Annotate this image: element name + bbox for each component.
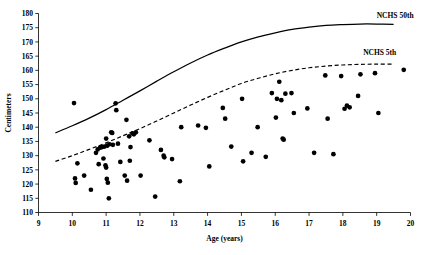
scatter-chart: 1101151201251301351401451501551601651701…	[0, 0, 423, 255]
y-tick-label: 140	[22, 123, 34, 132]
data-point	[339, 74, 344, 79]
x-tick-label: 10	[69, 219, 77, 228]
y-tick-label: 165	[22, 52, 34, 61]
data-point	[281, 137, 286, 142]
data-point	[325, 116, 330, 121]
data-point	[291, 111, 296, 116]
data-point	[82, 173, 87, 178]
data-point	[162, 155, 167, 160]
nchs-50th-label: NCHS 50th	[377, 11, 415, 20]
data-point	[122, 173, 127, 178]
x-tick-label: 13	[170, 219, 178, 228]
y-tick-label: 175	[22, 23, 34, 32]
data-point	[229, 144, 234, 149]
data-point	[73, 181, 78, 186]
x-axis: 91011121314151617181920	[37, 213, 415, 228]
y-tick-label: 160	[22, 66, 34, 75]
data-point	[134, 130, 139, 135]
data-point	[73, 176, 78, 181]
data-point	[241, 159, 246, 164]
y-tick-label: 125	[22, 166, 34, 175]
data-point	[401, 67, 406, 72]
data-point	[274, 115, 279, 120]
data-point	[111, 142, 116, 147]
y-axis-title: Centimeters	[4, 93, 13, 132]
data-point	[127, 158, 132, 163]
chart-canvas: 1101151201251301351401451501551601651701…	[0, 0, 423, 255]
data-point	[358, 72, 363, 77]
data-point	[204, 125, 209, 130]
data-point	[263, 154, 268, 159]
data-point	[305, 106, 310, 111]
data-point	[118, 160, 123, 165]
data-point	[153, 194, 158, 199]
data-point	[110, 131, 115, 136]
data-point	[240, 96, 245, 101]
data-point	[323, 73, 328, 78]
y-tick-label: 110	[22, 208, 33, 217]
data-point	[312, 150, 317, 155]
data-point	[196, 123, 201, 128]
x-tick-label: 20	[407, 219, 415, 228]
x-tick-label: 18	[339, 219, 347, 228]
data-point	[178, 179, 183, 184]
data-point	[96, 162, 101, 167]
data-point	[170, 157, 175, 162]
y-tick-label: 180	[22, 9, 34, 18]
x-axis-title: Age (years)	[206, 234, 243, 243]
data-point	[347, 105, 352, 110]
x-tick-label: 14	[204, 219, 212, 228]
y-tick-label: 145	[22, 109, 34, 118]
data-point	[207, 164, 212, 169]
y-tick-label: 155	[22, 80, 34, 89]
data-point	[104, 165, 109, 170]
series-labels: NCHS 50thNCHS 5th	[363, 11, 414, 57]
data-point	[356, 94, 361, 99]
data-point	[116, 141, 121, 146]
data-point	[249, 150, 254, 155]
data-point	[72, 101, 77, 106]
data-point	[275, 96, 280, 101]
y-tick-label: 115	[22, 194, 33, 203]
data-point	[147, 138, 152, 143]
data-point	[223, 116, 228, 121]
data-point	[220, 106, 225, 111]
data-point	[128, 145, 133, 150]
x-tick-label: 19	[373, 219, 381, 228]
data-point	[113, 101, 118, 106]
y-tick-label: 130	[22, 151, 34, 160]
y-tick-label: 170	[22, 38, 34, 47]
x-tick-label: 15	[238, 219, 246, 228]
data-point	[255, 125, 260, 130]
x-tick-label: 11	[103, 219, 110, 228]
data-point	[159, 148, 164, 153]
y-axis: 1101151201251301351401451501551601651701…	[22, 9, 39, 217]
data-point	[277, 79, 282, 84]
data-point	[105, 180, 110, 185]
x-tick-label: 9	[37, 219, 41, 228]
data-point	[179, 125, 184, 130]
data-point	[373, 71, 378, 76]
y-tick-label: 120	[22, 180, 34, 189]
nchs-5th-label: NCHS 5th	[363, 48, 397, 57]
x-tick-label: 17	[305, 219, 313, 228]
data-point	[376, 111, 381, 116]
x-tick-label: 16	[271, 219, 279, 228]
data-point	[283, 91, 288, 96]
data-point	[75, 161, 80, 166]
data-point	[279, 98, 284, 103]
data-point	[106, 196, 111, 201]
data-point	[124, 117, 129, 122]
y-tick-label: 150	[22, 94, 34, 103]
data-point	[331, 152, 336, 157]
data-point	[104, 136, 109, 141]
y-tick-label: 135	[22, 137, 34, 146]
data-point	[125, 178, 130, 183]
data-point	[289, 91, 294, 96]
data-point	[138, 173, 143, 178]
data-points	[72, 67, 406, 200]
x-tick-label: 12	[136, 219, 144, 228]
data-point	[101, 156, 106, 161]
data-point	[270, 91, 275, 96]
data-point	[89, 187, 94, 192]
